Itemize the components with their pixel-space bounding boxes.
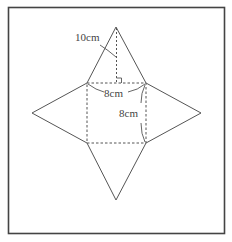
pyramid-net-svg: 10cm 8cm 8cm bbox=[0, 0, 232, 242]
right-angle-marker bbox=[117, 78, 122, 83]
height-leader-line bbox=[100, 45, 116, 57]
base-depth-arc-bottom bbox=[141, 123, 145, 142]
right-triangle bbox=[146, 83, 201, 143]
height-label: 10cm bbox=[75, 31, 100, 43]
base-depth-label: 8cm bbox=[119, 107, 138, 119]
base-depth-arc-top bbox=[141, 85, 145, 103]
diagram-canvas: 10cm 8cm 8cm bbox=[0, 0, 232, 242]
left-triangle bbox=[32, 83, 87, 143]
base-width-label: 8cm bbox=[104, 87, 123, 99]
bottom-triangle bbox=[87, 143, 146, 200]
base-width-arc bbox=[88, 84, 104, 92]
